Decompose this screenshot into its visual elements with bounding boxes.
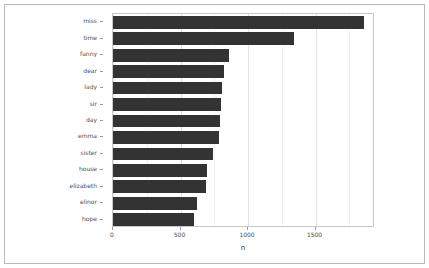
y-tick-label-elizabeth: elizabeth	[69, 183, 97, 189]
x-tick-mark	[247, 227, 248, 230]
y-tick-label-hope: hope	[82, 216, 97, 222]
bar-row	[113, 115, 373, 128]
x-tick-label-1000: 1000	[239, 232, 254, 238]
y-tick-label-emma: emma	[78, 133, 97, 139]
bar-row	[113, 148, 373, 161]
bar-row	[113, 32, 373, 45]
y-tick-mark	[100, 104, 103, 105]
y-tick-mark	[100, 21, 103, 22]
bar-day	[113, 115, 220, 128]
bar-row	[113, 49, 373, 62]
bar-fanny	[113, 49, 229, 62]
bar-series	[113, 14, 373, 226]
bar-row	[113, 131, 373, 144]
bar-sir	[113, 98, 221, 111]
x-tick-mark	[180, 227, 181, 230]
y-tick-mark	[100, 120, 103, 121]
bar-row	[113, 82, 373, 95]
y-tick-label-fanny: fanny	[80, 51, 97, 57]
plot-panel	[112, 13, 374, 227]
x-tick-mark	[112, 227, 113, 230]
bar-row	[113, 98, 373, 111]
bar-row	[113, 164, 373, 177]
y-tick-label-day: day	[86, 117, 97, 123]
y-tick-label-sister: sister	[81, 150, 97, 156]
bar-hope	[113, 213, 194, 226]
y-tick-mark	[100, 186, 103, 187]
x-axis-title: n	[112, 245, 374, 252]
y-tick-mark	[100, 202, 103, 203]
y-tick-mark	[100, 169, 103, 170]
x-tick-label-0: 0	[110, 232, 114, 238]
y-tick-label-sir: sir	[90, 101, 97, 107]
bar-row	[113, 180, 373, 193]
bar-house	[113, 164, 207, 177]
bar-elizabeth	[113, 180, 206, 193]
y-tick-mark	[100, 153, 103, 154]
y-tick-mark	[100, 38, 103, 39]
y-tick-mark	[100, 87, 103, 88]
bar-row	[113, 16, 373, 29]
x-tick-mark	[315, 227, 316, 230]
y-tick-mark	[100, 71, 103, 72]
y-tick-label-house: house	[79, 166, 97, 172]
y-tick-mark	[100, 136, 103, 137]
bar-emma	[113, 131, 219, 144]
bar-dear	[113, 65, 224, 78]
x-tick-label-1500: 1500	[307, 232, 322, 238]
bar-time	[113, 32, 294, 45]
bar-elinor	[113, 197, 197, 210]
y-tick-label-miss: miss	[83, 18, 97, 24]
y-tick-label-dear: dear	[83, 68, 97, 74]
y-tick-mark	[100, 219, 103, 220]
bar-lady	[113, 82, 222, 95]
y-tick-label-time: time	[83, 35, 97, 41]
y-axis: misstimefannydearladysirdayemmasisterhou…	[0, 13, 106, 227]
y-tick-mark	[100, 54, 103, 55]
y-tick-label-lady: lady	[84, 84, 97, 90]
bar-miss	[113, 16, 364, 29]
bar-row	[113, 197, 373, 210]
x-tick-label-500: 500	[174, 232, 185, 238]
bar-row	[113, 213, 373, 226]
chart-figure: misstimefannydearladysirdayemmasisterhou…	[0, 0, 429, 268]
bar-sister	[113, 148, 213, 161]
y-tick-label-elinor: elinor	[80, 199, 97, 205]
bar-row	[113, 65, 373, 78]
